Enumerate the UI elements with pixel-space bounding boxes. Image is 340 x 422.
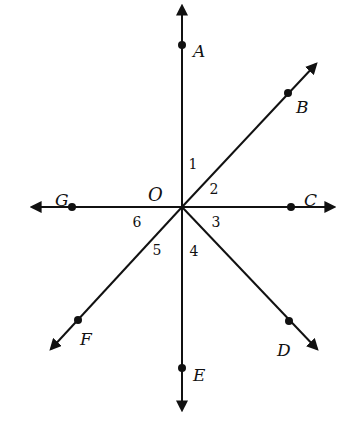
angle-label-6: 6 — [133, 214, 142, 230]
angle-label-1: 1 — [189, 156, 198, 172]
angle-label-3: 3 — [212, 214, 221, 230]
point-label-c: C — [304, 190, 317, 210]
ray-ob — [182, 64, 316, 207]
angle-label-2: 2 — [210, 181, 219, 197]
point-label-a: A — [191, 41, 205, 61]
point-label-b: B — [295, 97, 309, 117]
point-b-dot — [284, 89, 292, 97]
point-g-dot — [68, 203, 76, 211]
ray-od — [182, 207, 317, 349]
point-e-dot — [178, 364, 186, 372]
point-d-dot — [285, 317, 293, 325]
center-label-O: O — [148, 184, 163, 205]
point-label-g: G — [55, 190, 69, 210]
labels-group: ABCDEFG123456 — [55, 41, 317, 385]
angle-label-4: 4 — [190, 243, 199, 259]
point-label-e: E — [192, 365, 206, 385]
point-f-dot — [74, 316, 82, 324]
angle-diagram: ABCDEFG123456 O — [0, 0, 340, 422]
point-label-d: D — [276, 340, 291, 360]
diagram-svg: ABCDEFG123456 O — [0, 0, 340, 422]
point-c-dot — [287, 203, 295, 211]
point-label-f: F — [79, 329, 93, 349]
ray-of — [51, 207, 182, 349]
point-a-dot — [178, 41, 186, 49]
angle-label-5: 5 — [153, 242, 162, 258]
